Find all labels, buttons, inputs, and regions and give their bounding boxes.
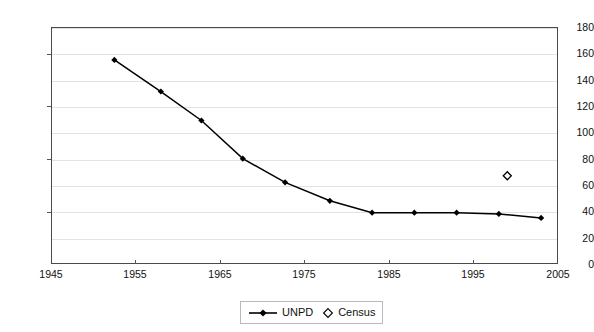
census-markers	[503, 172, 511, 180]
legend-item-unpd: UNPD	[248, 307, 313, 319]
unpd-data-point	[411, 210, 417, 216]
census-data-point	[503, 172, 511, 180]
unpd-data-point	[327, 198, 333, 204]
legend-label-unpd: UNPD	[282, 307, 313, 318]
legend-label-census: Census	[338, 307, 375, 318]
line-chart: 180 160 140 120 100 80 60 40 20 0 1945 1…	[0, 0, 594, 332]
open-diamond-icon	[322, 307, 334, 319]
series-layer	[0, 0, 594, 332]
unpd-data-point	[282, 179, 288, 185]
unpd-data-point	[538, 215, 544, 221]
unpd-data-point	[369, 210, 375, 216]
legend-item-census: Census	[322, 307, 375, 319]
unpd-data-point	[496, 211, 502, 217]
unpd-line	[114, 60, 541, 218]
unpd-markers	[111, 57, 544, 221]
line-with-filled-diamond-icon	[248, 307, 278, 319]
unpd-data-point	[454, 210, 460, 216]
chart-legend: UNPD Census	[240, 301, 383, 324]
